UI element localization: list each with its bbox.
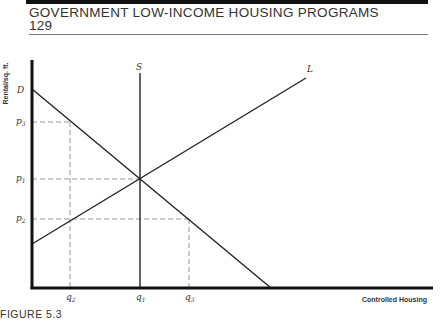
- label-l: L: [306, 64, 313, 74]
- guide-lines: [32, 122, 189, 288]
- supply-demand-chart: D S L p3 p1 p2 q2 q1 q3: [0, 0, 442, 327]
- tick-p1: p1: [16, 173, 26, 184]
- y-axis-label: Rental/sq. ft.: [2, 62, 9, 104]
- tick-q1: q1: [136, 292, 146, 303]
- figure-caption: FIGURE 5.3: [0, 308, 62, 320]
- label-s: S: [136, 62, 142, 72]
- label-d: D: [16, 85, 24, 95]
- tick-q3: q3: [185, 292, 195, 303]
- tick-p2: p2: [16, 213, 26, 224]
- demand-curve: [32, 89, 271, 288]
- tick-p3: p3: [16, 116, 26, 127]
- tick-q2: q2: [66, 292, 76, 303]
- x-axis-label: Controlled Housing: [362, 296, 427, 303]
